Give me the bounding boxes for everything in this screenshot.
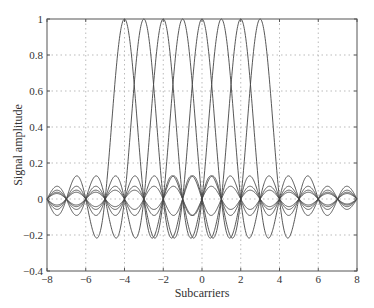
x-axis-ticks: −8−6−4−202468 <box>41 19 360 285</box>
subcarrier-sinc-chart: −8−6−4−202468 −0.4−0.200.20.40.60.81 Sub… <box>0 0 374 308</box>
y-tick-label: 0.4 <box>29 121 43 133</box>
x-tick-label: 0 <box>199 273 205 285</box>
x-axis-label: Subcarriers <box>175 286 230 300</box>
x-tick-label: −6 <box>80 273 92 285</box>
y-tick-label: 0.6 <box>29 85 43 97</box>
y-tick-label: 1 <box>38 13 44 25</box>
y-tick-label: 0 <box>38 193 44 205</box>
y-axis-label: Signal amplitude <box>11 104 25 186</box>
y-tick-label: 0.2 <box>29 157 43 169</box>
y-tick-label: −0.2 <box>23 229 43 241</box>
y-tick-label: −0.4 <box>23 265 43 277</box>
x-tick-label: 6 <box>316 273 322 285</box>
x-tick-label: −4 <box>119 273 131 285</box>
x-tick-label: 4 <box>277 273 283 285</box>
y-tick-label: 0.8 <box>29 49 43 61</box>
x-tick-label: 2 <box>238 273 244 285</box>
x-tick-label: −2 <box>157 273 169 285</box>
x-tick-label: 8 <box>354 273 360 285</box>
